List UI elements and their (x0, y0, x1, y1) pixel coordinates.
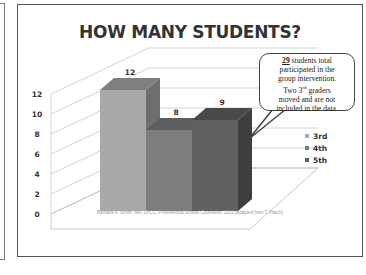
callout-tail (249, 109, 286, 139)
bar-3rd (100, 90, 146, 211)
callout-line-4-pre: Two 3 (283, 86, 302, 95)
callout-count: 29 (282, 56, 290, 65)
callout-line-3: group intervention. (260, 74, 354, 83)
y-tick-label: 10 (32, 110, 42, 119)
previous-slide-edge[interactable] (0, 3, 5, 260)
chart-legend: 3rd 4th 5th (305, 130, 327, 166)
callout-line-1-text: students total (290, 56, 332, 65)
callout-line-2: participated in the (260, 65, 354, 74)
callout-line-4-post: graders (307, 86, 331, 95)
legend-label-3rd: 3rd (313, 132, 327, 141)
legend-label-5th: 5th (313, 156, 327, 165)
data-label-5th: 9 (219, 98, 224, 107)
slide-footer-citation: Barbara A. Smith, MA, LPCC, Professional… (18, 210, 362, 215)
data-label-4th: 8 (173, 108, 178, 117)
callout-box: 29 students total participated in the gr… (259, 53, 355, 111)
slide: HOW MANY STUDENTS? 0246810121289 29 stud… (17, 4, 363, 257)
bar-4th (146, 130, 192, 211)
legend-label-4th: 4th (313, 144, 327, 153)
callout-line-5: moved and are not (260, 95, 354, 104)
bar-side-5th (238, 108, 252, 211)
y-tick-label: 8 (34, 130, 39, 139)
callout-line-4: Two 3rd graders (260, 83, 354, 95)
legend-swatch-3rd (305, 134, 309, 138)
legend-item-5th: 5th (305, 154, 327, 166)
y-tick-label: 4 (34, 170, 39, 179)
legend-swatch-5th (305, 158, 309, 162)
legend-swatch-4th (305, 146, 309, 150)
data-label-3rd: 12 (125, 68, 135, 77)
bar-5th (192, 120, 238, 211)
legend-item-4th: 4th (305, 142, 327, 154)
legend-item-3rd: 3rd (305, 130, 327, 142)
y-tick-label: 6 (34, 150, 39, 159)
callout-line-6: included in the data. (260, 104, 354, 113)
callout-line-1: 29 students total (260, 56, 354, 65)
y-tick-label: 12 (32, 90, 42, 99)
y-tick-label: 2 (34, 190, 39, 199)
